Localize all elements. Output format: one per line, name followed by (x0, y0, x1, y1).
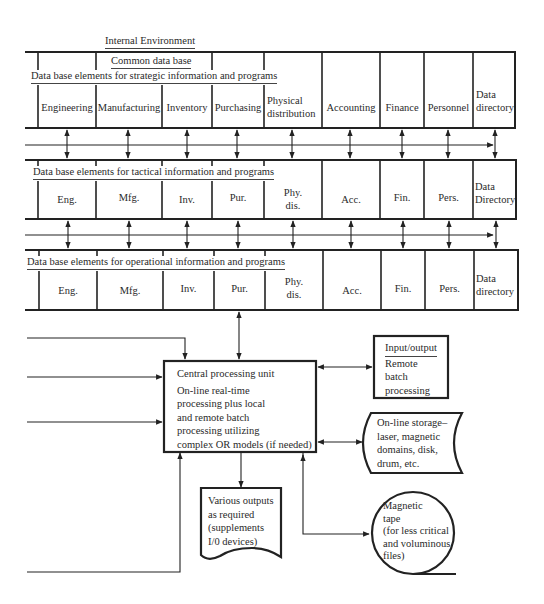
strategic-cell-purchasing: Purchasing (212, 86, 264, 128)
magnetic-tape-circle: Magnetic tape (for less critical and vol… (383, 500, 450, 563)
strategic-cell-engineering: Engineering (38, 86, 96, 128)
tactical-cell-phy-dis: Phy. dis. (276, 180, 310, 218)
storage-line: On-line storage– (377, 416, 447, 430)
operational-cell-acc: Acc. (323, 271, 381, 309)
operational-cell-pers: Pers. (425, 269, 474, 307)
cpu-line: and remote batch (177, 411, 312, 425)
io-line: Remote (385, 357, 437, 371)
strategic-cell-manufacturing: Manufacturing (96, 86, 162, 128)
tape-line: (for less critical (383, 525, 450, 538)
operational-cell-inv: Inv. (163, 269, 214, 307)
cpu-box: Central processing unit On-line real-tim… (177, 367, 312, 451)
io-title: Input/output (385, 341, 437, 357)
cpu-line: complex OR models (if needed) (177, 438, 312, 452)
strategic-cell-personnel: Personnel (424, 86, 473, 128)
strategic-cell-physical-distribution: Physical distribution (264, 86, 322, 128)
strategic-cell-accounting: Accounting (322, 86, 380, 128)
io-box: Input/output Remote batch processing (385, 341, 437, 397)
strategic-cell-data-directory: Data directory (473, 80, 515, 122)
cpu-line: processing utilizing (177, 424, 312, 438)
operational-cell-pur: Pur. (214, 269, 265, 307)
tactical-cell-acc: Acc. (322, 180, 380, 218)
strategic-cell-inventory: Inventory (162, 86, 212, 128)
operational-cell-fin: Fin. (381, 269, 425, 307)
cpu-line: On-line real-time (177, 384, 312, 398)
outputs-line: Various outputs (208, 494, 274, 508)
tactical-cell-eng: Eng. (38, 180, 96, 218)
online-storage-box: On-line storage– laser, magnetic domains… (377, 416, 447, 470)
tape-line: files) (383, 550, 450, 563)
operational-cell-phy-dis: Phy. dis. (277, 269, 311, 307)
io-line: processing (385, 384, 437, 398)
tactical-cell-pers: Pers. (424, 178, 473, 216)
operational-cell-mfg: Mfg. (97, 271, 163, 309)
io-line: batch (385, 370, 437, 384)
various-outputs-document: Various outputs as required (supplements… (208, 494, 274, 548)
strategic-cell-finance: Finance (380, 86, 424, 128)
tactical-cell-pur: Pur. (212, 178, 264, 216)
tape-line: and voluminous (383, 538, 450, 551)
outputs-line: (supplements (208, 521, 274, 535)
tactical-cell-mfg: Mfg. (96, 178, 162, 216)
operational-cell-eng: Eng. (39, 271, 97, 309)
storage-line: domains, disk, (377, 443, 447, 457)
tape-line: tape (383, 513, 450, 526)
outputs-line: as required (208, 508, 274, 522)
strategic-band-label: Data base elements for strategic informa… (31, 70, 277, 84)
cpu-line: processing plus local (177, 397, 312, 411)
tactical-cell-fin: Fin. (380, 178, 424, 216)
tape-line: Magnetic (383, 500, 450, 513)
internal-environment-title: Internal Environment (105, 35, 195, 49)
tactical-cell-data-directory: Data Directory (473, 174, 517, 212)
cpu-title: Central processing unit (177, 367, 312, 381)
storage-line: drum, etc. (377, 457, 447, 471)
outputs-line: I/0 devices) (208, 535, 274, 549)
operational-cell-data-directory: Data directory (474, 266, 518, 304)
storage-line: laser, magnetic (377, 430, 447, 444)
tactical-cell-inv: Inv. (162, 180, 212, 218)
common-data-base-label: Common data base (111, 55, 191, 69)
operational-band-label: Data base elements for operational infor… (27, 256, 285, 270)
